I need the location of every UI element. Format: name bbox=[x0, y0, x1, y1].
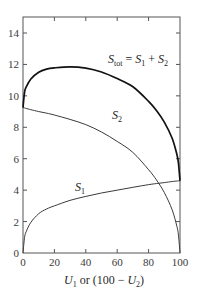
s2-label: S2 bbox=[112, 108, 122, 124]
s1-label: S1 bbox=[75, 180, 85, 196]
y-tick-label: 14 bbox=[8, 27, 20, 39]
curves bbox=[23, 67, 180, 253]
y-tick-label: 2 bbox=[14, 216, 20, 228]
x-tick-label: 40 bbox=[80, 256, 92, 268]
y-tick-label: 10 bbox=[8, 90, 20, 102]
y-tick-label: 0 bbox=[14, 247, 20, 259]
curve-s1 bbox=[23, 181, 180, 253]
curve-stot bbox=[23, 67, 180, 181]
x-tick-label: 60 bbox=[112, 256, 124, 268]
x-tick-label: 100 bbox=[172, 256, 189, 268]
x-axis-label: U1 or (100 − U2) bbox=[64, 273, 144, 289]
stot-label: Stot = S1 + S2 bbox=[108, 52, 168, 68]
y-tick-label: 12 bbox=[8, 58, 19, 70]
x-tick-label: 20 bbox=[49, 256, 61, 268]
x-tick-label: 0 bbox=[20, 256, 26, 268]
y-tick-label: 8 bbox=[14, 121, 20, 133]
y-tick-label: 6 bbox=[14, 153, 20, 165]
curve-s2 bbox=[23, 108, 180, 253]
entropy-chart: 02040608010002468101214 Stot = S1 + S2 S… bbox=[0, 0, 198, 300]
y-tick-label: 4 bbox=[14, 184, 20, 196]
x-tick-label: 80 bbox=[143, 256, 155, 268]
